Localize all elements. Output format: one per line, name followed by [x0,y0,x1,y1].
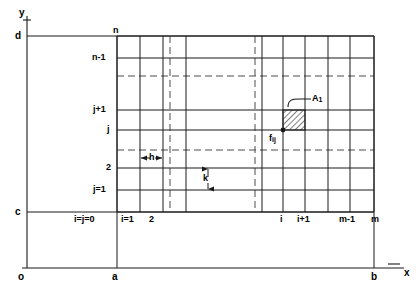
coordinate-axes [22,16,404,268]
grid-col-label-i-plus-1: i+1 [297,215,310,224]
grid-col-label-i: i [280,215,283,224]
grid-row-label-2: 2 [106,163,111,172]
domain-boundary [27,36,374,268]
k-spacing-label: k [203,174,208,183]
x-tick-b: b [371,272,377,282]
cell-annotation-A1-subscript: 1 [319,96,323,103]
callout-leader-A1 [288,99,311,107]
diagram-canvas [0,0,416,306]
node-point-fij [281,128,286,133]
x-axis-label: x [404,268,410,278]
origin-label: o [18,272,24,282]
y-tick-d: d [15,31,21,41]
grid-row-label-j-equals-1: j=1 [93,185,106,194]
grid-col-label-m-minus-1: m-1 [339,215,355,224]
grid-row-label-j-plus-1: j+1 [93,105,106,114]
cell-annotation-A1: A1 [312,94,322,103]
grid-col-label-zero: i=j=0 [74,215,95,224]
grid-col-label-i-equals-1: i=1 [121,215,134,224]
finite-difference-grid-figure: y x o a b c d n n-1 j+1 j 2 j=1 i=j=0 i=… [0,0,416,306]
grid-row-label-j: j [107,125,110,134]
node-annotation-fij-subscript: ij [272,136,276,143]
grid-col-label-2: 2 [149,215,154,224]
x-tick-a: a [112,272,118,282]
grid-vertical-lines [117,36,374,212]
grid-row-label-n: n [113,26,119,35]
y-axis-label: y [19,8,25,18]
shaded-cell-group [281,99,311,132]
shaded-cell-A1 [283,110,305,130]
grid-col-label-m: m [371,215,379,224]
grid-row-label-n-minus-1: n-1 [92,53,106,62]
grid-dashed-lines [117,36,374,212]
node-annotation-fij: fij [269,134,276,143]
y-tick-c: c [15,207,21,217]
grid-horizontal-lines [117,36,374,212]
h-spacing-label: h [149,153,155,162]
